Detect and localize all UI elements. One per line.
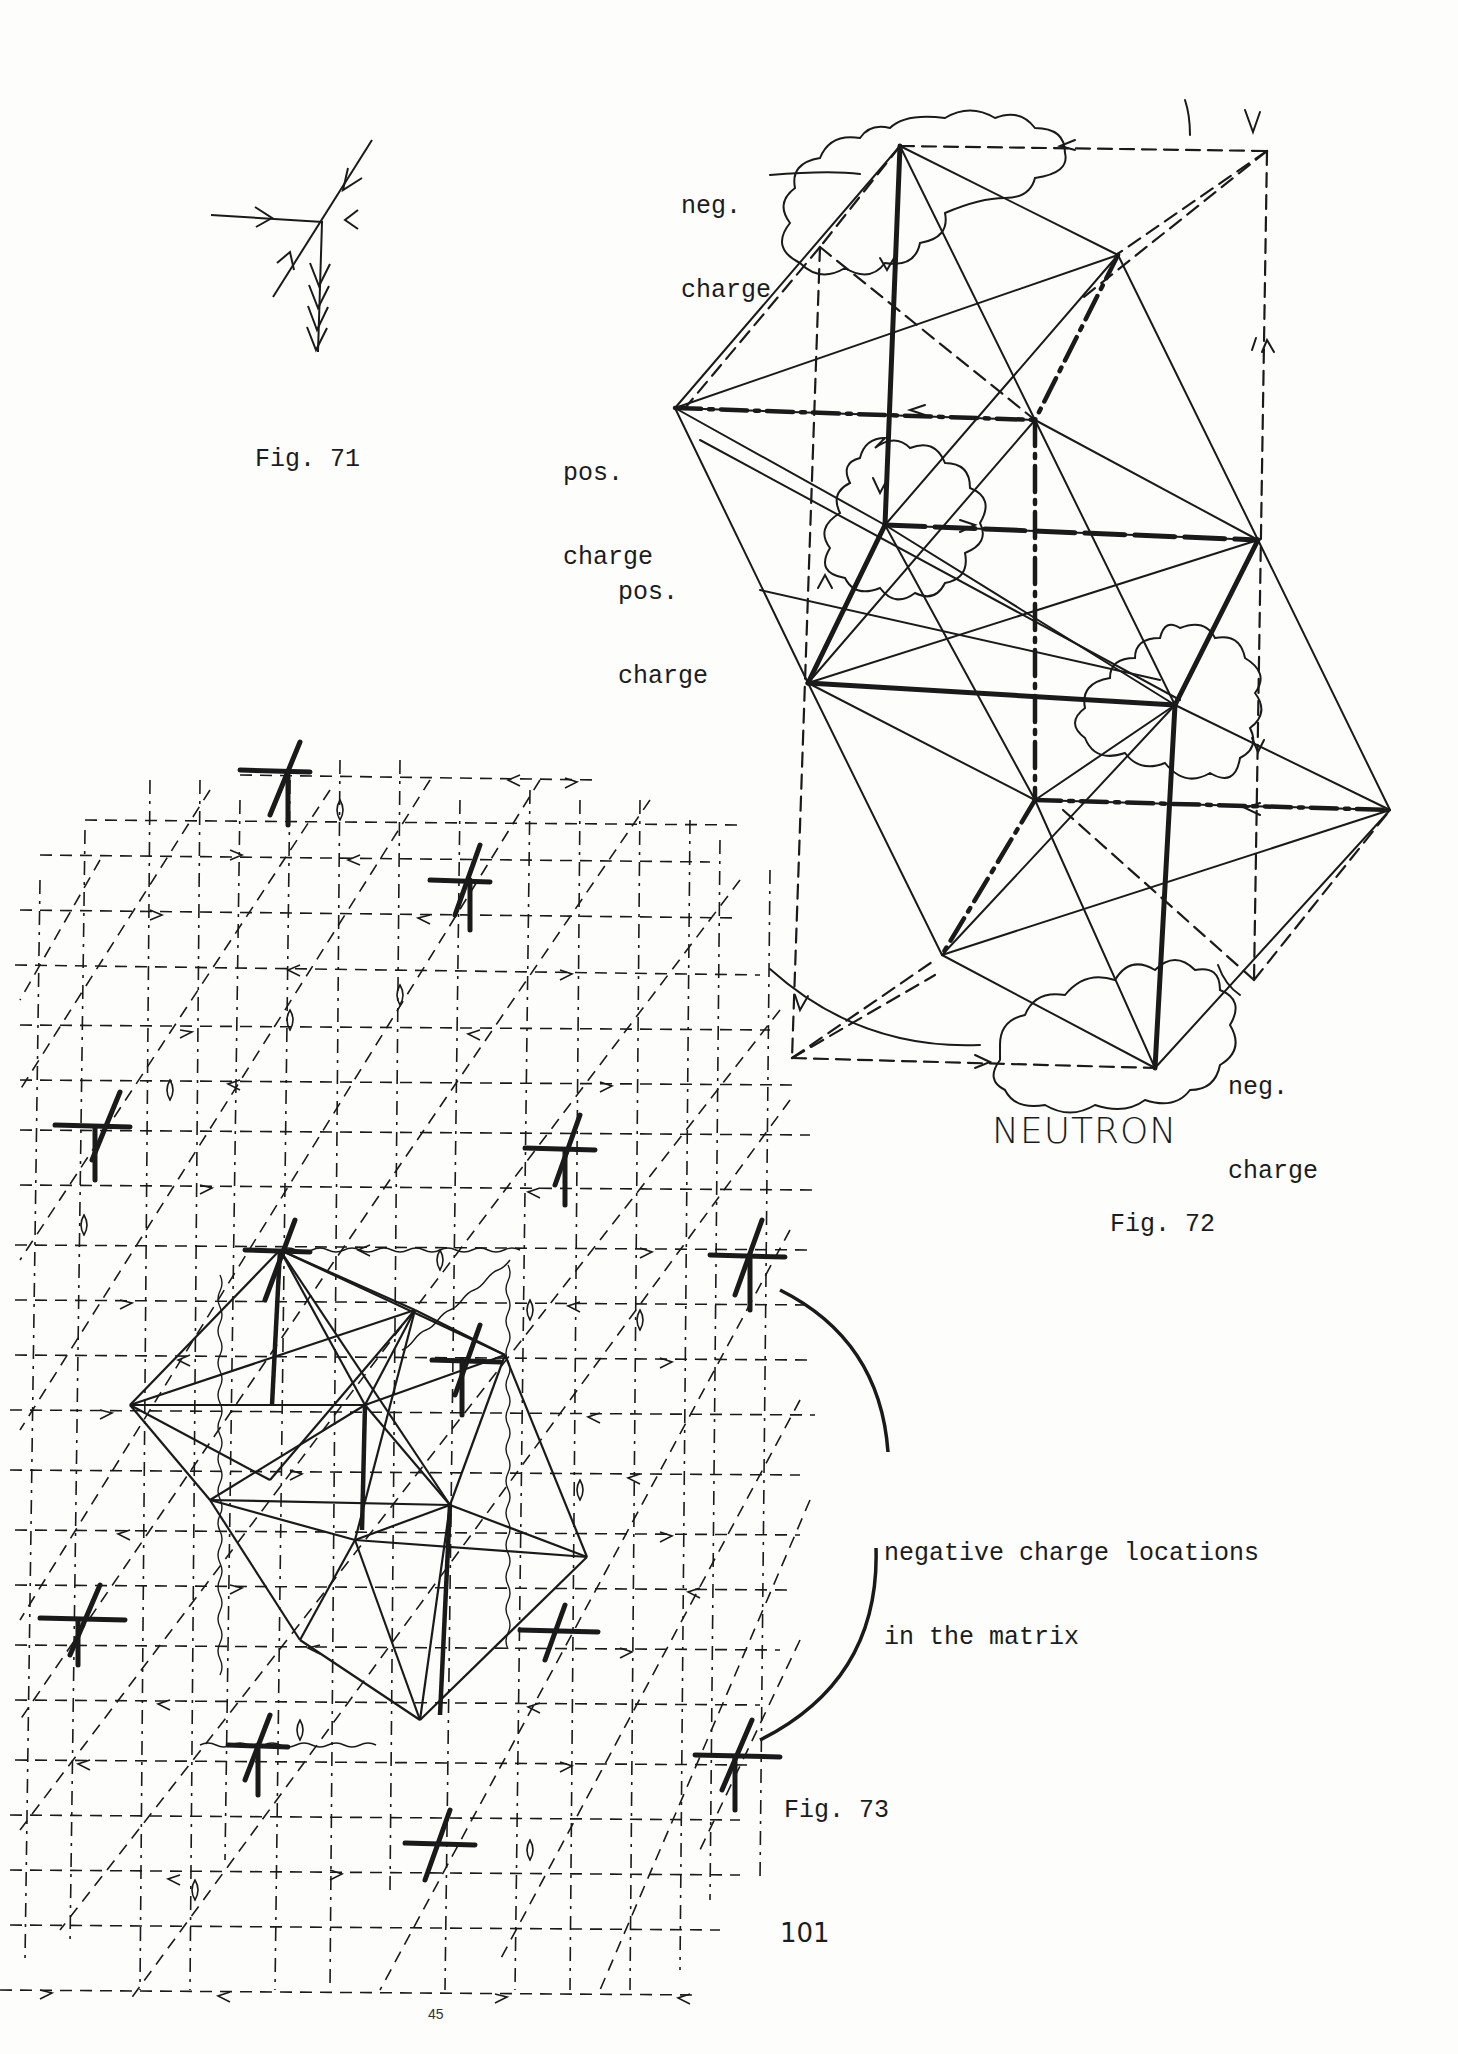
fig73-matrix-diagram — [0, 0, 1458, 2054]
callout-bracket-upper — [780, 1290, 888, 1452]
fig73-caption: Fig. 73 — [784, 1796, 889, 1825]
page-number: 101 — [780, 1918, 830, 1948]
bottom-marker: 45 — [428, 2006, 444, 2022]
document-page: Fig. 71 — [0, 0, 1458, 2054]
fig73-callout-negative-charge-locations: negative charge locations in the matrix — [884, 1484, 1259, 1708]
